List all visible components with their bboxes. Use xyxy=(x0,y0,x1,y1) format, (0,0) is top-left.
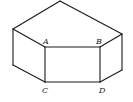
prism-diagram: A B C D xyxy=(0,0,133,102)
edge-apex-righttop xyxy=(60,1,122,34)
vertex-label-c: C xyxy=(42,86,48,95)
edge-leftbottom-C xyxy=(13,65,45,82)
edges xyxy=(13,1,122,82)
vertex-label-b: B xyxy=(95,37,102,46)
edge-lefttop-A xyxy=(13,29,45,47)
edge-D-rightbottom xyxy=(100,70,122,82)
vertex-label-a: A xyxy=(42,37,49,46)
vertex-labels: A B C D xyxy=(42,37,106,95)
edge-apex-lefttop xyxy=(13,1,60,29)
vertex-label-d: D xyxy=(98,86,106,95)
edge-B-righttop xyxy=(100,34,122,47)
